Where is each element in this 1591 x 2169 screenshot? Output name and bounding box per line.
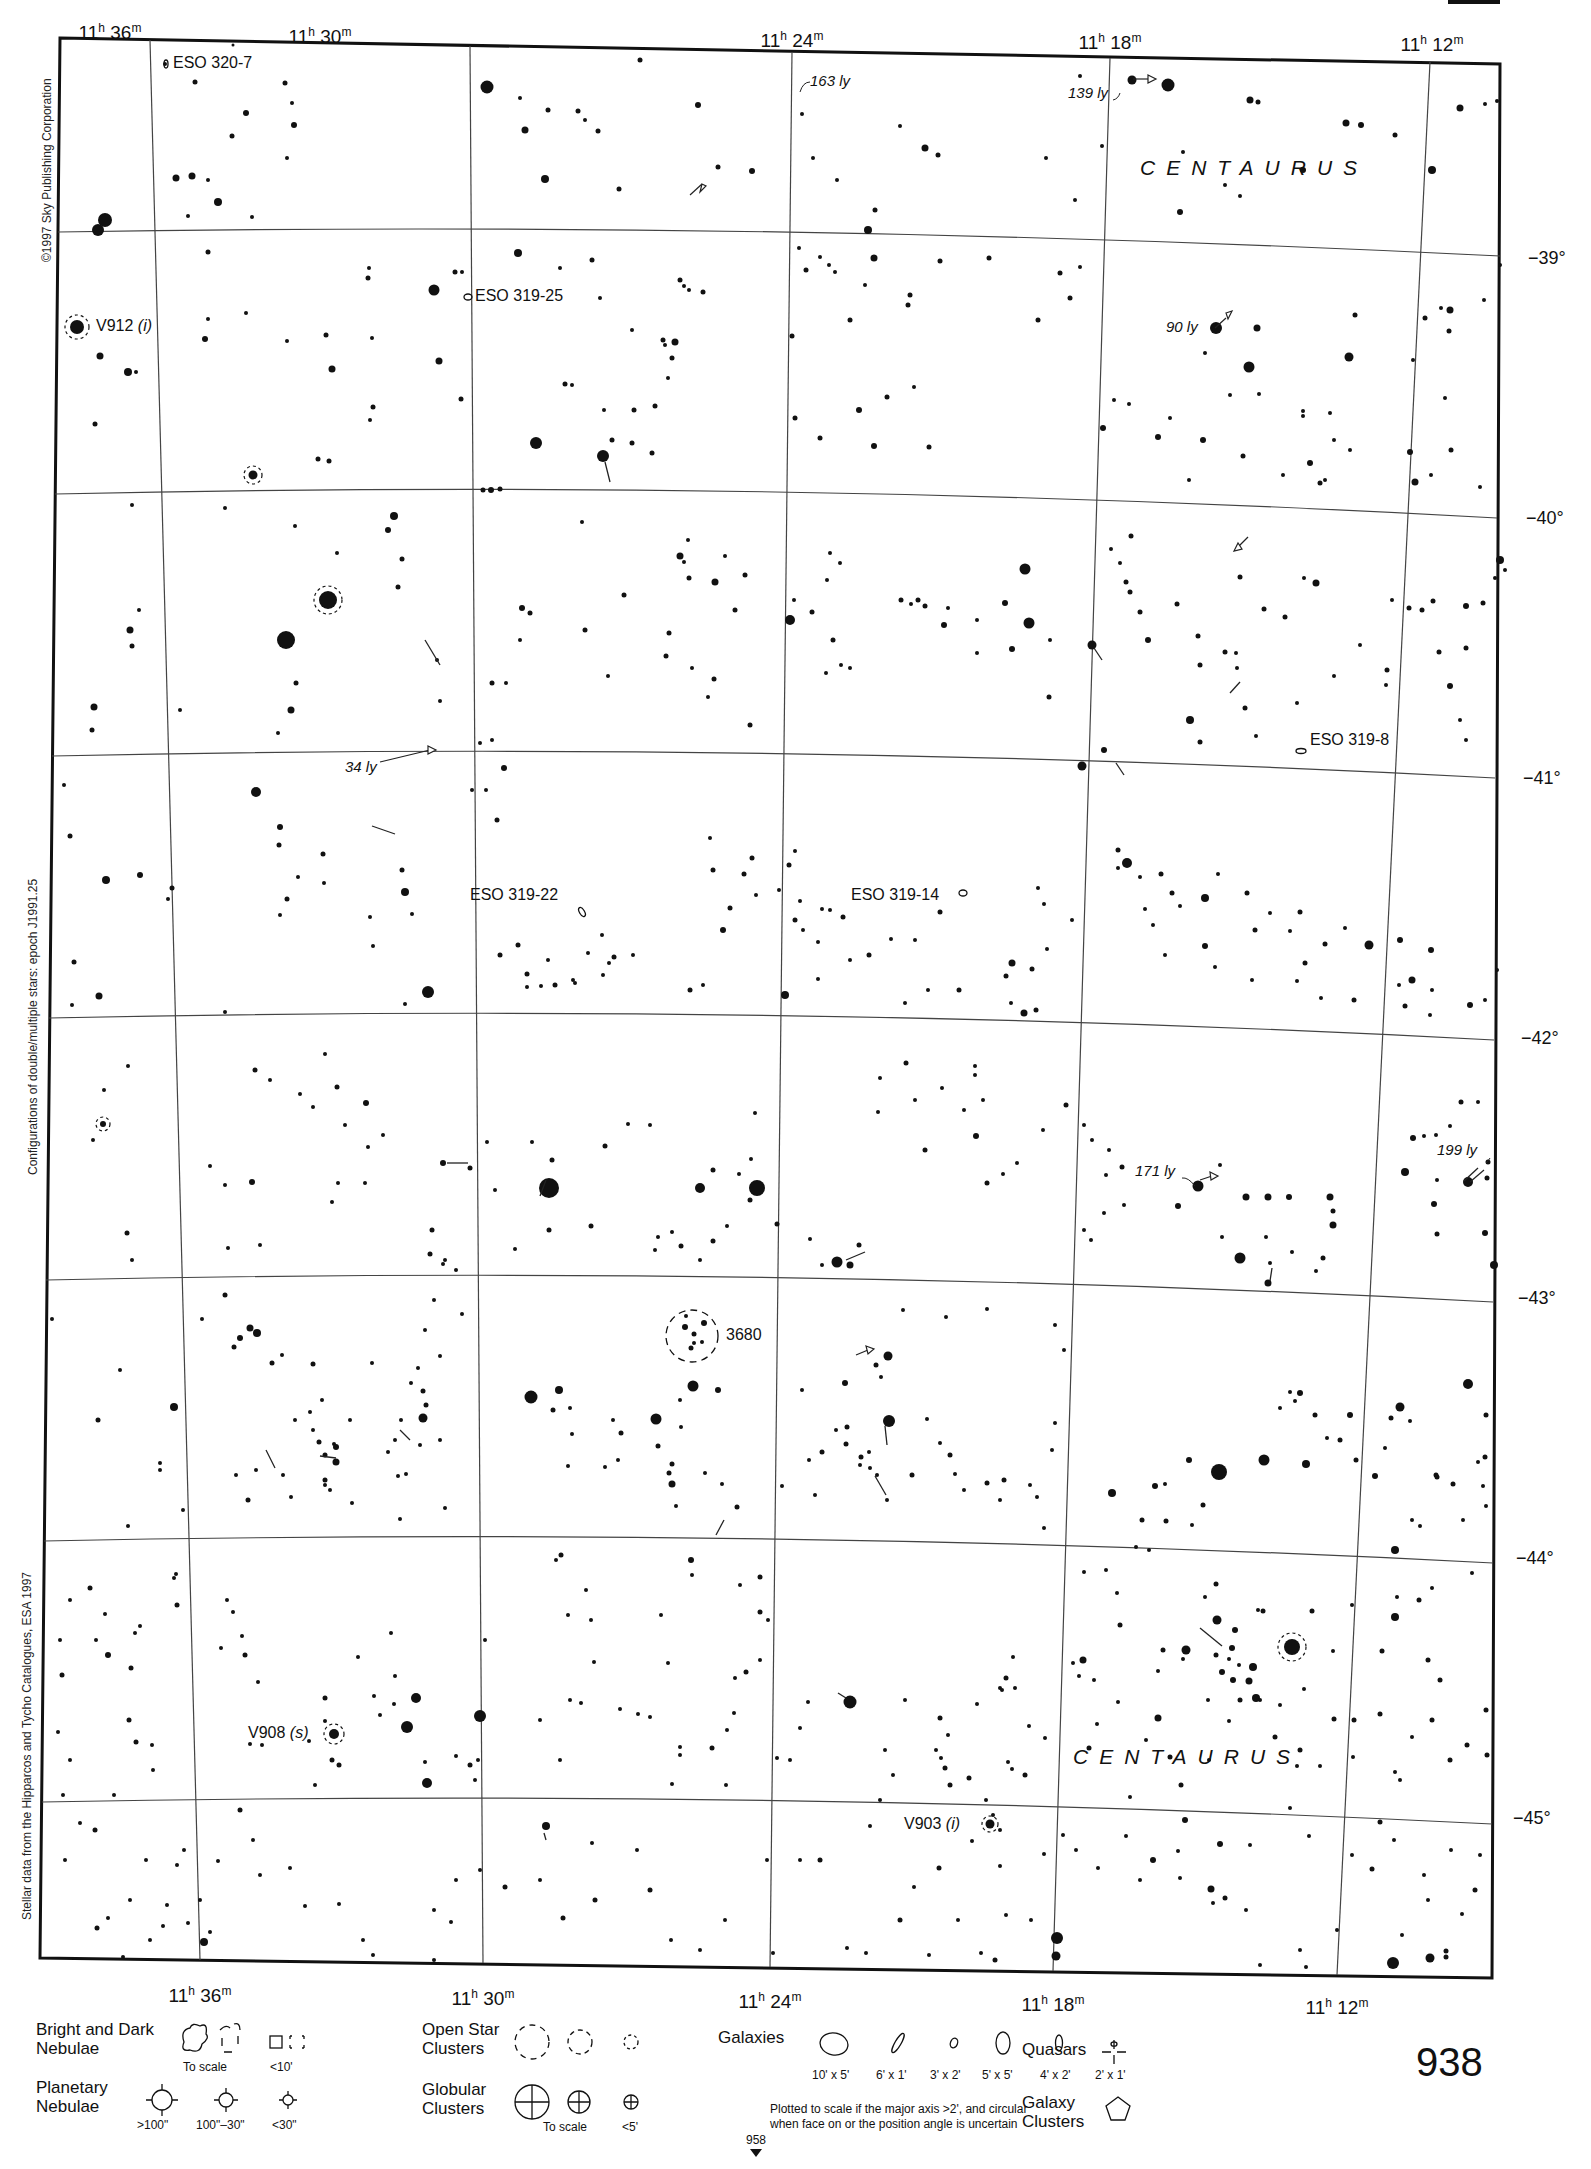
chart-frame [40, 38, 1500, 1978]
legend-galaxy-size-2: 6' x 1' [876, 2068, 907, 2082]
label-eso-320-7: ESO 320-7 [173, 54, 252, 72]
label-v912: V912 (i) [96, 317, 152, 335]
distance-171ly: 171 ly [1135, 1162, 1175, 1179]
legend-planetary-size-2: 100"–30" [196, 2118, 245, 2132]
legend-open-cluster-title: Open StarClusters [422, 2020, 500, 2058]
variable-star-markers [65, 315, 1306, 1832]
legend-nebulae-toscale: To scale [183, 2060, 227, 2074]
constellation-label-lower: CENTAURUS [1073, 1745, 1301, 1769]
legend-galaxy-size-6: 2' x 1' [1095, 2068, 1126, 2082]
label-v903: V903 (i) [904, 1815, 960, 1833]
label-eso-319-14: ESO 319-14 [851, 886, 939, 904]
legend-galaxy-note: Plotted to scale if the major axis >2', … [770, 2102, 1027, 2132]
arrow-down-icon [749, 2148, 763, 2158]
distance-163ly: 163 ly [810, 72, 850, 89]
label-eso-319-25: ESO 319-25 [475, 287, 563, 305]
star-chart [0, 0, 1591, 2169]
label-eso-319-22: ESO 319-22 [470, 886, 558, 904]
proper-motion-vectors [266, 462, 1478, 1840]
legend-galaxy-clusters-title: GalaxyClusters [1022, 2093, 1084, 2131]
nebula-symbols-icon [178, 2020, 318, 2060]
stars [50, 44, 1507, 1970]
label-v908: V908 (s) [248, 1724, 308, 1742]
legend-planetary-size-3: <30" [272, 2118, 297, 2132]
legend-nebulae-small: <10' [270, 2060, 293, 2074]
dec-grid-lines [42, 229, 1500, 1824]
cluster-3680-stars [682, 1314, 707, 1351]
legend-galaxy-size-4: 5' x 5' [982, 2068, 1013, 2082]
constellation-label-upper: CENTAURUS [1140, 156, 1368, 180]
distance-199ly: 199 ly [1437, 1141, 1477, 1158]
distance-139ly: 139 ly [1068, 84, 1108, 101]
distance-90ly: 90 ly [1166, 318, 1198, 335]
quasar-symbol-icon [1100, 2038, 1128, 2066]
legend-quasars-title: Quasars [1022, 2040, 1086, 2059]
ra-grid-lines [150, 40, 1430, 1975]
planetary-nebula-symbols-icon [140, 2080, 320, 2120]
legend-galaxies-title: Galaxies [718, 2028, 784, 2047]
label-eso-319-8: ESO 319-8 [1310, 731, 1389, 749]
legend-galaxy-size-5: 4' x 2' [1040, 2068, 1071, 2082]
label-ngc-3680: 3680 [726, 1326, 762, 1344]
legend-galaxy-size-3: 3' x 2' [930, 2068, 961, 2082]
legend-nebulae-title: Bright and DarkNebulae [36, 2020, 154, 2058]
adjacent-page-number: 958 [740, 2133, 772, 2147]
galaxy-symbols [164, 60, 1306, 918]
legend-planetary-title: PlanetaryNebulae [36, 2078, 108, 2116]
open-arrows [380, 75, 1484, 1355]
distance-34ly: 34 ly [345, 758, 377, 775]
legend-galaxy-size-1: 10' x 5' [812, 2068, 849, 2082]
legend-globular-toscale: To scale [543, 2120, 587, 2134]
legend-globular-title: GlobularClusters [422, 2080, 486, 2118]
open-cluster-3680 [666, 1310, 718, 1362]
open-cluster-symbols-icon [510, 2020, 650, 2064]
galaxy-cluster-symbol-icon [1103, 2094, 1133, 2124]
page-number: 938 [1416, 2040, 1483, 2085]
globular-cluster-symbols-icon [510, 2082, 650, 2122]
distance-leader-lines [800, 82, 1490, 1186]
legend-globular-small: <5' [622, 2120, 638, 2134]
legend-planetary-size-1: >100" [137, 2118, 168, 2132]
adjacent-page-link[interactable]: 958 [740, 2133, 772, 2161]
